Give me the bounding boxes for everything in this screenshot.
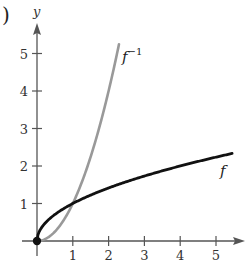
f-label: f: [219, 162, 228, 180]
origin-point: [33, 237, 41, 245]
f-inverse-curve: [37, 44, 119, 241]
panel-label: ): [2, 3, 10, 27]
y-ticks: 12345: [20, 47, 42, 212]
y-tick-label: 2: [20, 159, 28, 174]
y-axis-label: y: [32, 4, 41, 19]
x-tick-label: 1: [69, 248, 77, 263]
x-ticks: 12345: [69, 236, 220, 263]
f-inverse-label-superscript: −1: [128, 46, 143, 57]
x-tick-label: 3: [140, 248, 148, 263]
x-tick-label: 5: [212, 248, 220, 263]
y-tick-label: 1: [20, 197, 28, 212]
y-tick-label: 3: [20, 122, 28, 137]
y-tick-label: 4: [20, 84, 28, 99]
f-curve: [37, 153, 232, 241]
y-tick-label: 5: [20, 47, 28, 62]
f-inverse-label: f−1: [121, 46, 142, 66]
function-inverse-chart: ) y 12345 12345 f−1 f: [0, 0, 250, 265]
x-tick-label: 4: [176, 248, 184, 263]
x-tick-label: 2: [104, 248, 112, 263]
axes: y: [22, 4, 245, 256]
